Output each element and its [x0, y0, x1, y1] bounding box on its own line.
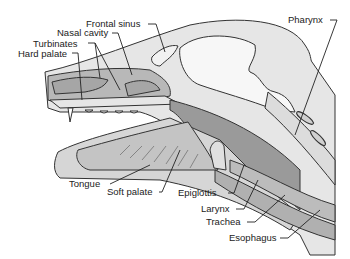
label-soft-palate: Soft palate	[107, 186, 152, 197]
label-larynx: Larynx	[201, 203, 230, 214]
anatomy-diagram: Frontal sinus Nasal cavity Turbinates Ha…	[0, 0, 350, 259]
label-epiglottis: Epiglottis	[178, 187, 217, 198]
label-hard-palate: Hard palate	[18, 48, 67, 59]
label-trachea: Trachea	[206, 216, 241, 227]
label-esophagus: Esophagus	[229, 232, 277, 243]
label-pharynx: Pharynx	[288, 14, 323, 25]
label-tongue: Tongue	[69, 178, 100, 189]
head-section	[45, 20, 335, 255]
label-nasal-cavity: Nasal cavity	[57, 27, 108, 38]
